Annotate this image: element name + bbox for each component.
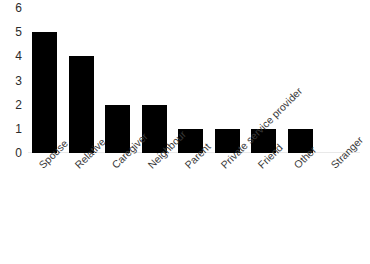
y-tick-label: 0: [15, 147, 22, 159]
x-axis: SpouseRelativeCaregiverNeighbourParentPr…: [28, 153, 370, 264]
bar: [32, 32, 57, 153]
y-tick-label: 6: [15, 2, 22, 14]
plot-area: [28, 8, 370, 153]
bar-chart: 0123456 SpouseRelativeCaregiverNeighbour…: [0, 0, 370, 264]
bar: [69, 56, 94, 153]
y-axis: 0123456: [0, 0, 28, 264]
y-tick-label: 5: [15, 26, 22, 38]
y-tick-label: 2: [15, 99, 22, 111]
y-tick-label: 4: [15, 50, 22, 62]
y-tick-label: 1: [15, 123, 22, 135]
y-tick-label: 3: [15, 75, 22, 87]
